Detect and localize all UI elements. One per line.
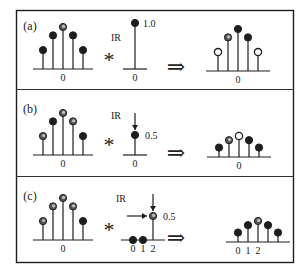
convolution-operator: *	[104, 47, 115, 72]
sample-marker	[39, 47, 46, 54]
panel-label: (b)	[23, 102, 37, 116]
ir-value-label: 0.5	[163, 211, 176, 222]
panel-label: (a)	[23, 19, 36, 33]
ir-label: IR	[111, 32, 121, 43]
convolution-operator: *	[104, 217, 115, 242]
input-origin-label: 0	[61, 72, 66, 83]
sample-marker-highlight	[72, 204, 75, 207]
sample-marker	[255, 144, 262, 151]
input-sequence: 0	[33, 194, 93, 254]
input-sequence: 0	[33, 109, 93, 169]
sample-marker-highlight	[227, 35, 230, 38]
sample-marker	[79, 218, 86, 225]
sample-marker	[131, 131, 138, 138]
input-origin-label: 0	[61, 158, 66, 169]
input-origin-label: 0	[61, 243, 66, 254]
sample-marker	[234, 229, 241, 236]
ir-label: IR	[116, 193, 126, 204]
ir-tick-label: 0	[133, 72, 138, 83]
output-tick-label: 0	[237, 160, 242, 171]
panel-a: (a)0*IR1.00⇒0	[23, 18, 270, 85]
sample-marker	[245, 137, 252, 144]
sample-marker	[79, 133, 86, 140]
panel-label: (c)	[23, 189, 36, 203]
sample-marker	[264, 222, 271, 229]
ir-tick-label: 1	[141, 243, 146, 254]
output-tick-label: 0	[236, 245, 241, 256]
input-sequence: 0	[33, 23, 93, 83]
sample-marker	[79, 47, 86, 54]
sample-marker	[234, 25, 241, 32]
ir-label: IR	[111, 110, 121, 121]
ir-down-arrow-head	[132, 125, 138, 130]
sample-marker-highlight	[62, 111, 65, 114]
sample-marker	[215, 144, 222, 151]
ir-tick-label: 2	[151, 243, 156, 254]
output-sequence: 012	[226, 217, 290, 256]
sample-marker	[235, 132, 242, 139]
panel-c: (c)0*IR0.5012⇒012	[23, 189, 290, 256]
sample-marker	[49, 32, 56, 39]
result-arrow: ⇒	[167, 225, 185, 250]
convolution-figure: (a)0*IR1.00⇒0 (b)0*IR0.50⇒0 (c)0*IR0.501…	[0, 0, 304, 277]
sample-marker-highlight	[152, 214, 155, 217]
result-arrow: ⇒	[167, 140, 185, 165]
output-tick-label: 0	[236, 74, 241, 85]
output-sequence: 0	[207, 132, 271, 171]
ir-value-label: 1.0	[143, 18, 156, 29]
sample-marker-highlight	[42, 219, 45, 222]
sample-marker-highlight	[42, 134, 45, 137]
ir-right-arrow-head	[142, 213, 147, 219]
ir-tick-label: 0	[131, 243, 136, 254]
sample-marker	[131, 19, 138, 26]
sample-marker-highlight	[72, 119, 75, 122]
convolution-operator: *	[104, 132, 115, 157]
output-tick-label: 1	[246, 245, 251, 256]
result-arrow: ⇒	[167, 54, 185, 79]
ir-value-label: 0.5	[145, 130, 158, 141]
sample-marker-highlight	[52, 204, 55, 207]
sample-marker	[244, 34, 251, 41]
ir-down-arrow-head	[150, 206, 156, 211]
sample-marker	[69, 32, 76, 39]
sample-marker	[274, 229, 281, 236]
output-tick-label: 2	[256, 245, 261, 256]
sample-marker-highlight	[257, 219, 260, 222]
sample-marker-highlight	[62, 25, 65, 28]
sample-marker	[214, 49, 221, 56]
impulse-response: IR1.00	[111, 18, 156, 83]
sample-marker-highlight	[228, 138, 231, 141]
impulse-response: IR0.50	[111, 110, 158, 169]
sample-marker	[254, 49, 261, 56]
sample-marker-highlight	[62, 196, 65, 199]
output-sequence: 0	[206, 25, 270, 85]
sample-marker	[49, 118, 56, 125]
ir-tick-label: 0	[133, 158, 138, 169]
sample-marker	[244, 222, 251, 229]
panel-b: (b)0*IR0.50⇒0	[23, 102, 271, 171]
